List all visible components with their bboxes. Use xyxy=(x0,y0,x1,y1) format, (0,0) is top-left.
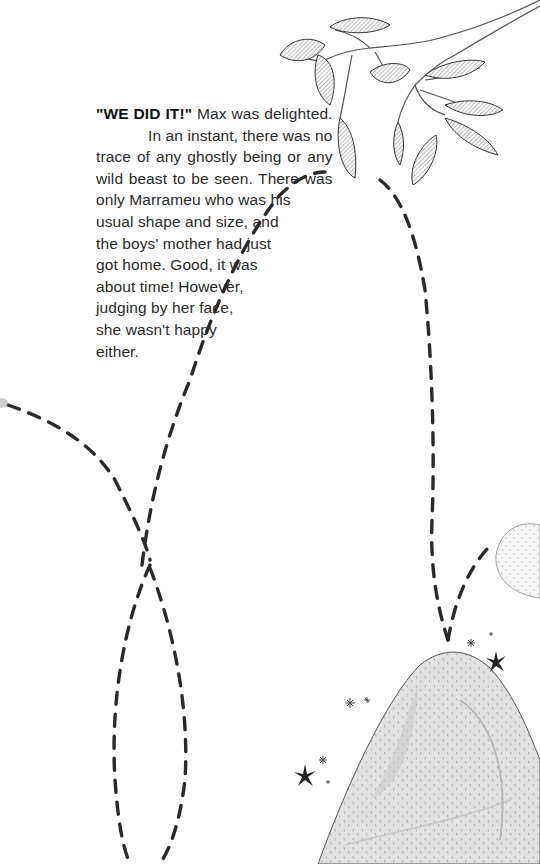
story-text: "WE DID IT!" Max was delighted. In an in… xyxy=(96,103,333,362)
story-line-5: only Marrameu who was his xyxy=(96,189,276,211)
dotted-mound xyxy=(318,652,540,864)
story-line-2: In an instant, there was no xyxy=(96,125,333,147)
story-line-7: the boys' mother had just xyxy=(96,233,333,255)
story-line-1: "WE DID IT!" Max was delighted. xyxy=(96,103,333,125)
story-line-8: got home. Good, it was xyxy=(96,254,333,276)
story-line-12: either. xyxy=(96,341,333,363)
exclamation: "WE DID IT!" xyxy=(96,105,192,122)
book-page: "WE DID IT!" Max was delighted. In an in… xyxy=(0,0,540,864)
story-line-6: usual shape and size, and xyxy=(96,211,271,233)
story-line-3: trace of any ghostly being or any xyxy=(96,146,333,168)
dotted-stone xyxy=(496,524,540,598)
story-line-11: she wasn't happy xyxy=(96,319,333,341)
story-line-4: wild beast to be seen. There was xyxy=(96,168,333,190)
story-line-10: judging by her face, xyxy=(96,297,333,319)
story-line-9: about time! However, xyxy=(96,276,333,298)
edge-smudge xyxy=(0,398,8,408)
